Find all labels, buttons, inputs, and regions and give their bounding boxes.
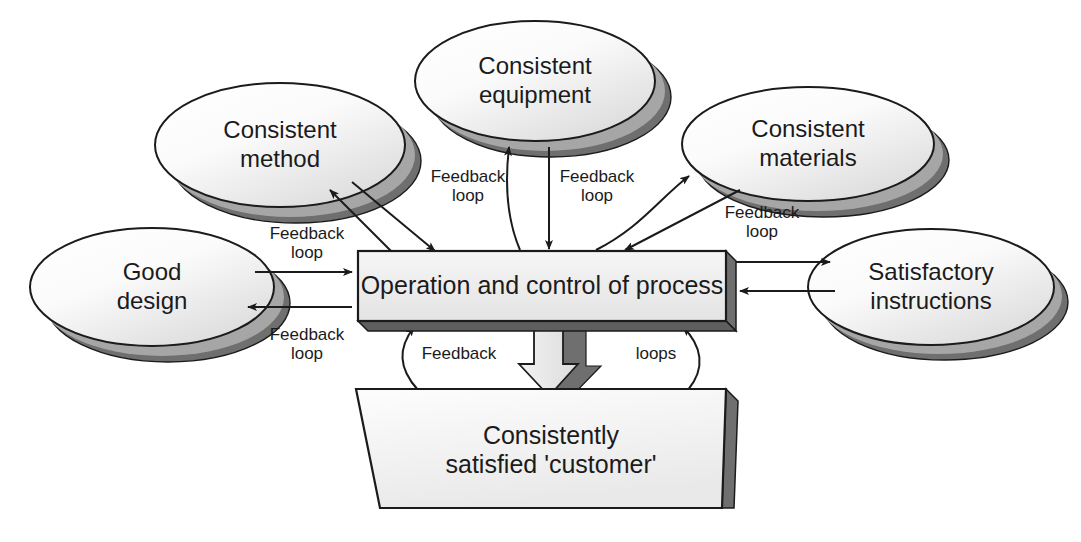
loop-label-customer-loops: loops [636,344,677,363]
loop-label-equipment-right: Feedback loop [560,167,635,205]
loop-label-good-design: Feedback loop [270,325,345,363]
node-good-design[interactable]: Good design [30,228,290,362]
consistent-method-label-line2: method [240,145,320,172]
loop-label-consistent-materials-line2: loop [746,222,778,241]
process-box[interactable]: Operation and control of process [358,251,736,331]
loop-label-consistent-method-line2: loop [291,243,323,262]
node-consistent-materials[interactable]: Consistent materials [682,87,949,217]
consistent-materials-label-line1: Consistent [751,115,865,142]
loop-label-equipment-left: Feedback loop [431,167,506,205]
customer-box[interactable]: Consistently satisfied 'customer' [356,389,738,508]
satisfactory-instructions-label-line1: Satisfactory [868,258,993,285]
loop-label-equipment-left-line1: Feedback [431,167,506,186]
loop-label-good-design-line2: loop [291,344,323,363]
loop-label-consistent-materials: Feedback loop [725,203,800,241]
process-box-label: Operation and control of process [361,271,724,299]
loop-label-equipment-right-line2: loop [581,186,613,205]
loop-label-good-design-line1: Feedback [270,325,345,344]
loop-label-equipment-right-line1: Feedback [560,167,635,186]
process-box-side-shadow [726,251,736,331]
process-diagram: Consistent method Consistent equipment C… [0,0,1081,542]
loop-label-consistent-materials-line1: Feedback [725,203,800,222]
customer-box-label-line1: Consistently [483,421,620,449]
loop-label-consistent-method-line1: Feedback [270,224,345,243]
loop-label-customer-feedback: Feedback [422,344,497,363]
satisfactory-instructions-label-line2: instructions [870,287,991,314]
node-consistent-equipment[interactable]: Consistent equipment [415,21,671,157]
good-design-label-line1: Good [123,258,182,285]
node-consistent-method[interactable]: Consistent method [155,83,421,223]
customer-box-label-line2: satisfied 'customer' [445,450,656,478]
arrow-consistent-materials-to-box [625,190,740,250]
diagram-canvas: Consistent method Consistent equipment C… [0,0,1081,542]
loop-label-consistent-method: Feedback loop [270,224,345,262]
process-box-bottom-shadow [358,321,736,331]
node-satisfactory-instructions[interactable]: Satisfactory instructions [808,229,1068,360]
consistent-materials-label-line2: materials [759,144,856,171]
loop-label-equipment-left-line2: loop [452,186,484,205]
arrow-customer-feedback-left [402,327,418,390]
arrow-box-to-consistent-equipment [507,147,520,250]
consistent-equipment-label-line1: Consistent [478,52,592,79]
consistent-equipment-label-line2: equipment [479,81,591,108]
arrow-customer-feedback-right [683,327,700,390]
good-design-label-line2: design [117,287,188,314]
consistent-method-label-line1: Consistent [223,116,337,143]
